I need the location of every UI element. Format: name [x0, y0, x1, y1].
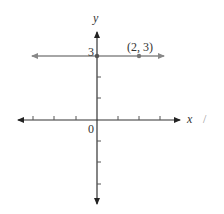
stray-mark: /	[203, 113, 206, 125]
point-label: (2, 3)	[127, 41, 153, 53]
point-0-3	[95, 54, 99, 58]
y-axis-label: y	[93, 12, 98, 24]
coordinate-plane	[0, 0, 224, 214]
y-intercept-label: 3	[88, 46, 94, 58]
point-2-3	[137, 54, 141, 58]
origin-label: 0	[88, 123, 94, 135]
x-axis-label: x	[187, 113, 192, 125]
